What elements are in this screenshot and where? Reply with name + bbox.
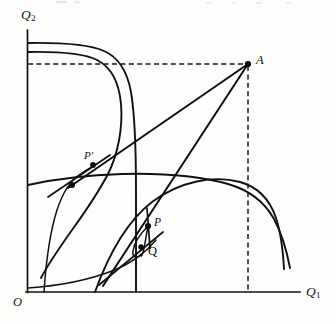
- point-marker-A: [245, 61, 251, 67]
- point-marker-Pprime: [90, 162, 96, 168]
- y-axis-label-subscript: 2: [31, 13, 35, 23]
- point-label-A: A: [256, 54, 264, 67]
- upper-indifference-curve-inner: [28, 52, 121, 278]
- scan-artifacts: [56, 1, 291, 4]
- y-axis-label: Q2: [21, 8, 35, 22]
- lower-indifference-curve-inner: [95, 179, 284, 292]
- ray-A-to-Pprime: [68, 64, 248, 188]
- origin-label: O: [13, 296, 22, 309]
- point-marker-Pprime2: [69, 182, 75, 188]
- point-marker-P: [145, 223, 151, 229]
- y-axis-label-text: Q: [21, 7, 31, 22]
- figure-root: Q2 Q1 O A P' P Q: [0, 0, 336, 325]
- axes-group: [26, 30, 300, 293]
- x-axis-label: Q1: [306, 285, 320, 299]
- offer-curve-upper: [44, 166, 94, 292]
- upper-indifference-curves: [28, 43, 136, 292]
- lower-indifference-curves: [28, 174, 290, 292]
- upper-indifference-curve-outer: [28, 43, 136, 292]
- x-axis-label-subscript: 1: [316, 290, 320, 300]
- point-label-P-prime: P': [84, 150, 93, 161]
- ray-A-to-P: [103, 64, 248, 286]
- tangent-at-Pprime: [48, 155, 110, 197]
- point-marker-Q: [138, 244, 143, 249]
- figure-canvas: [0, 0, 336, 325]
- point-label-Q: Q: [148, 245, 157, 258]
- x-axis-label-text: Q: [306, 284, 316, 299]
- point-label-P: P: [154, 217, 161, 229]
